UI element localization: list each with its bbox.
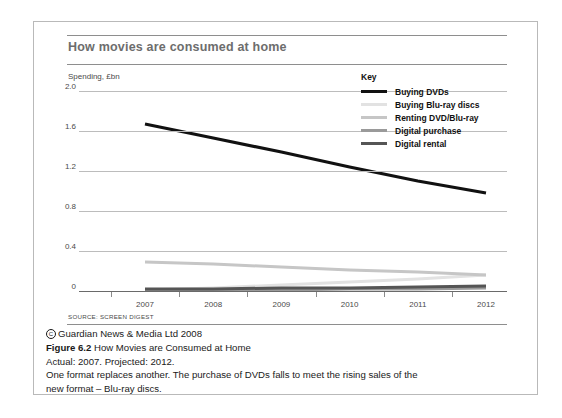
x-axis-tick-label: 2009	[261, 300, 301, 309]
legend-swatch-icon	[361, 103, 387, 106]
legend-row: Digital purchase	[361, 124, 521, 137]
caption-figure-line: Figure 6.2 How Movies are Consumed at Ho…	[46, 341, 527, 355]
x-axis-tick-mark	[247, 292, 248, 297]
chart-block: How movies are consumed at home Spending…	[34, 22, 539, 319]
legend-label: Digital purchase	[395, 126, 461, 136]
legend-swatch-icon	[361, 129, 387, 132]
legend-label: Digital rental	[395, 139, 446, 149]
figure-caption: CGuardian News & Media Ltd 2008 Figure 6…	[34, 327, 539, 395]
source-note: SOURCE: SCREEN DIGEST	[68, 313, 154, 320]
plot-area: 00.40.81.21.62.0200720082009201020112012	[34, 22, 539, 319]
figure-card: How movies are consumed at home Spending…	[33, 21, 538, 395]
copyright-icon: C	[46, 329, 56, 339]
caption-body-line-2: new format – Blu-ray discs.	[46, 382, 527, 396]
caption-figure-label: Figure 6.2	[46, 342, 91, 353]
x-axis-tick-label: 2012	[466, 300, 506, 309]
y-axis-tick-label: 0.8	[48, 202, 76, 211]
legend-row: Buying DVDs	[361, 85, 521, 98]
x-axis-tick-label: 2008	[193, 300, 233, 309]
legend-title: Key	[361, 72, 521, 82]
x-axis-tick-mark	[111, 292, 112, 297]
legend-label: Buying Blu-ray discs	[395, 100, 480, 110]
y-axis-tick-label: 0	[48, 282, 76, 291]
x-axis-tick-mark	[452, 292, 453, 297]
source-rule	[67, 324, 507, 325]
gridline	[79, 171, 507, 172]
gridline	[79, 211, 507, 212]
series-line	[145, 262, 486, 275]
legend-label: Buying DVDs	[395, 87, 449, 97]
legend-row: Renting DVD/Blu-ray	[361, 111, 521, 124]
gridline	[79, 251, 507, 252]
x-axis-tick-mark	[316, 292, 317, 297]
chart-legend: Key Buying DVDsBuying Blu-ray discsRenti…	[361, 72, 521, 150]
legend-swatch-icon	[361, 90, 387, 94]
x-axis-tick-label: 2007	[125, 300, 165, 309]
caption-body-line-1: One format replaces another. The purchas…	[46, 368, 527, 382]
legend-row: Buying Blu-ray discs	[361, 98, 521, 111]
caption-figure-title: How Movies are Consumed at Home	[94, 342, 251, 353]
x-axis-tick-mark	[384, 292, 385, 297]
caption-body: One format replaces another. The purchas…	[46, 368, 527, 395]
y-axis-tick-label: 1.6	[48, 122, 76, 131]
caption-copyright-line: CGuardian News & Media Ltd 2008	[46, 327, 527, 341]
x-axis-tick-label: 2010	[330, 300, 370, 309]
x-axis-line	[79, 291, 507, 292]
legend-label: Renting DVD/Blu-ray	[395, 113, 479, 123]
x-axis-tick-mark	[179, 292, 180, 297]
caption-copyright-text: Guardian News & Media Ltd 2008	[58, 328, 202, 339]
y-axis-tick-label: 1.2	[48, 162, 76, 171]
legend-swatch-icon	[361, 116, 387, 119]
caption-note: Actual: 2007. Projected: 2012.	[46, 355, 527, 369]
legend-row: Digital rental	[361, 137, 521, 150]
x-axis-tick-label: 2011	[398, 300, 438, 309]
y-axis-tick-label: 2.0	[48, 82, 76, 91]
y-axis-tick-label: 0.4	[48, 242, 76, 251]
legend-swatch-icon	[361, 142, 387, 145]
